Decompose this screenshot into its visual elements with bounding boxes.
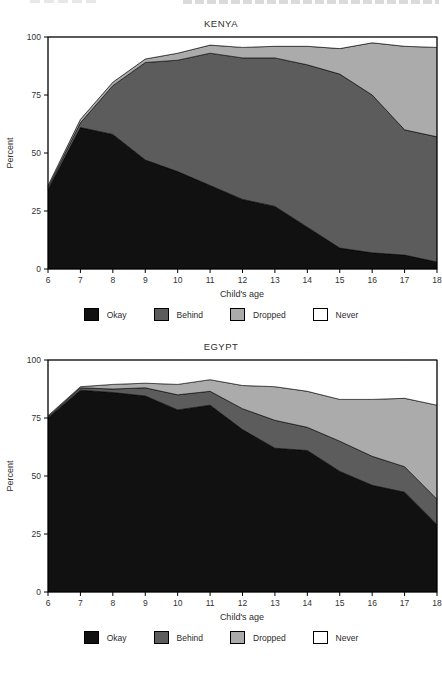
- legend-label-behind: Behind: [177, 633, 203, 643]
- y-tick-label: 100: [27, 356, 41, 365]
- x-tick-label: 8: [110, 275, 115, 285]
- y-tick-label: 75: [32, 413, 42, 423]
- x-tick-label: 18: [432, 598, 442, 608]
- x-tick-label: 12: [238, 275, 248, 285]
- x-tick-label: 14: [303, 275, 313, 285]
- y-tick-label: 25: [32, 206, 42, 216]
- legend-item-okay: Okay: [84, 631, 127, 644]
- legend-label-dropped: Dropped: [253, 633, 286, 643]
- legend: Okay Behind Dropped Never: [0, 629, 442, 646]
- legend-label-okay: Okay: [107, 310, 127, 320]
- legend-label-dropped: Dropped: [253, 310, 286, 320]
- dropped-swatch: [230, 631, 245, 644]
- x-tick-label: 16: [367, 275, 377, 285]
- behind-swatch: [154, 308, 169, 321]
- legend-label-never: Never: [336, 310, 359, 320]
- dropped-swatch: [230, 308, 245, 321]
- x-tick-label: 9: [143, 598, 148, 608]
- chart-title-egypt: EGYPT: [0, 337, 442, 356]
- x-tick-label: 11: [206, 275, 215, 285]
- x-tick-label: 12: [238, 598, 248, 608]
- legend-item-never: Never: [313, 631, 359, 644]
- legend-item-never: Never: [313, 308, 359, 321]
- x-tick-label: 10: [173, 598, 183, 608]
- y-tick-label: 25: [32, 529, 42, 539]
- behind-swatch: [154, 631, 169, 644]
- x-axis-label: Child's age: [220, 289, 264, 299]
- x-tick-label: 6: [46, 598, 51, 608]
- egypt-chart-block: EGYPT Percent Child's age 02550751006789…: [0, 337, 442, 646]
- okay-swatch: [84, 631, 99, 644]
- y-tick-label: 75: [32, 90, 42, 100]
- x-tick-label: 15: [335, 275, 345, 285]
- x-tick-label: 16: [367, 598, 377, 608]
- legend-item-okay: Okay: [84, 308, 127, 321]
- figure: KENYA Percent Child's age 02550751006789…: [0, 14, 442, 646]
- x-tick-label: 10: [173, 275, 183, 285]
- x-tick-label: 11: [206, 598, 215, 608]
- x-tick-label: 13: [270, 598, 280, 608]
- x-tick-label: 8: [110, 598, 115, 608]
- y-tick-label: 100: [27, 33, 41, 42]
- legend-item-dropped: Dropped: [230, 631, 286, 644]
- x-tick-label: 18: [432, 275, 442, 285]
- y-axis-label: Percent: [5, 137, 15, 169]
- x-tick-label: 13: [270, 275, 280, 285]
- x-tick-label: 6: [46, 275, 51, 285]
- x-tick-label: 17: [400, 598, 410, 608]
- scanned-page: KENYA Percent Child's age 02550751006789…: [0, 0, 442, 675]
- x-tick-label: 15: [335, 598, 345, 608]
- x-tick-label: 14: [303, 598, 313, 608]
- x-tick-label: 9: [143, 275, 148, 285]
- egypt-chart: Percent Child's age 02550751006789101112…: [0, 356, 442, 624]
- x-axis-label: Child's age: [220, 612, 264, 622]
- legend-item-behind: Behind: [154, 631, 203, 644]
- legend-label-never: Never: [336, 633, 359, 643]
- y-tick-label: 50: [32, 148, 42, 158]
- kenya-chart: Percent Child's age 02550751006789101112…: [0, 33, 442, 301]
- legend-item-dropped: Dropped: [230, 308, 286, 321]
- x-tick-label: 7: [78, 275, 83, 285]
- cropped-running-header: [183, 0, 439, 4]
- okay-swatch: [84, 308, 99, 321]
- legend-item-behind: Behind: [154, 308, 203, 321]
- legend-label-okay: Okay: [107, 633, 127, 643]
- y-tick-label: 0: [36, 587, 41, 597]
- x-tick-label: 7: [78, 598, 83, 608]
- never-swatch: [313, 308, 328, 321]
- x-tick-label: 17: [400, 275, 410, 285]
- never-swatch: [313, 631, 328, 644]
- cropped-page-number: [30, 0, 96, 3]
- y-tick-label: 0: [36, 264, 41, 274]
- y-tick-label: 50: [32, 471, 42, 481]
- legend: Okay Behind Dropped Never: [0, 306, 442, 323]
- y-axis-label: Percent: [5, 460, 15, 492]
- legend-label-behind: Behind: [177, 310, 203, 320]
- kenya-chart-block: KENYA Percent Child's age 02550751006789…: [0, 14, 442, 323]
- chart-title-kenya: KENYA: [0, 14, 442, 33]
